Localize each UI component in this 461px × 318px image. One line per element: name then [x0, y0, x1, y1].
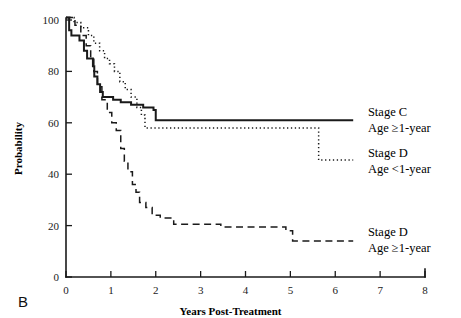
y-tick-label: 100: [43, 14, 60, 26]
x-tick-label: 5: [288, 284, 294, 296]
x-tick-label: 2: [153, 284, 159, 296]
x-tick-label: 3: [198, 284, 204, 296]
y-tick-label: 20: [48, 220, 60, 232]
x-tick-label: 0: [63, 284, 69, 296]
curve-label-subtitle: Age <1-year: [368, 162, 432, 176]
x-axis-title: Years Post-Treatment: [180, 305, 282, 317]
curve-label-subtitle: Age ≥1-year: [368, 121, 432, 135]
curve-label-title: Stage C: [368, 105, 407, 119]
panel-label: B: [18, 293, 28, 310]
y-tick-label: 80: [48, 65, 60, 77]
x-tick-label: 8: [422, 284, 428, 296]
curve-label-subtitle: Age ≥1-year: [368, 241, 432, 255]
x-tick-label: 6: [333, 284, 339, 296]
y-tick-label: 40: [48, 168, 60, 180]
curve-label-title: Stage D: [368, 225, 408, 239]
y-tick-label: 60: [48, 117, 60, 129]
y-tick-label: 0: [54, 271, 60, 283]
figure-panel-b: 012345678 020406080100 Stage CAge ≥1-yea…: [0, 0, 461, 318]
x-tick-label: 7: [377, 284, 383, 296]
x-tick-label: 4: [243, 284, 249, 296]
y-axis-title: Probability: [12, 122, 24, 175]
curve-label-title: Stage D: [368, 146, 408, 160]
survival-chart: 012345678 020406080100 Stage CAge ≥1-yea…: [0, 0, 461, 318]
x-tick-label: 1: [108, 284, 114, 296]
